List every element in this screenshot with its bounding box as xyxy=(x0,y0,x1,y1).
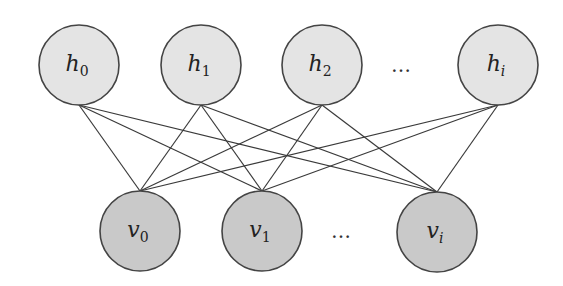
node-h0: h0 xyxy=(39,25,119,105)
edge-group xyxy=(79,105,498,192)
edge-hi-v0 xyxy=(140,105,498,191)
edge-h2-v1 xyxy=(262,105,322,191)
node-v1: v1 xyxy=(222,191,302,271)
ellipsis-0: … xyxy=(391,53,411,77)
bipartite-network-diagram: h0h1h2hiv0v1vi …… xyxy=(0,0,563,286)
node-group: h0h1h2hiv0v1vi xyxy=(39,25,538,272)
node-vi: vi xyxy=(397,192,477,272)
node-h1: h1 xyxy=(161,25,241,105)
ellipsis-1: … xyxy=(331,219,351,243)
edge-h0-vi xyxy=(79,105,437,192)
node-hi: hi xyxy=(458,25,538,105)
node-v0: v0 xyxy=(100,191,180,271)
edge-h2-v0 xyxy=(140,105,322,191)
node-h2: h2 xyxy=(282,25,362,105)
